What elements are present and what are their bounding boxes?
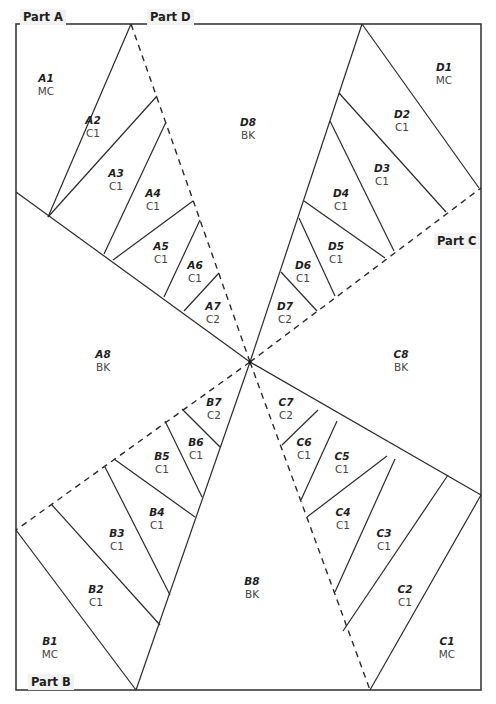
piece-color: C1	[296, 449, 311, 462]
piece-color: BK	[393, 361, 408, 374]
piece-id: B6	[188, 436, 203, 449]
piece-id: B7	[206, 396, 221, 409]
part-label-c: Part C	[434, 233, 480, 249]
piece-d2: D2C1	[394, 108, 410, 134]
piece-id: B2	[88, 583, 103, 596]
piece-id: D6	[295, 259, 311, 272]
piece-id: C4	[335, 506, 350, 519]
piece-id: A3	[108, 167, 123, 180]
piece-id: B8	[244, 575, 259, 588]
piece-color: C1	[88, 596, 103, 609]
piece-color: C2	[206, 409, 221, 422]
piece-id: A2	[85, 114, 100, 127]
piece-id: D2	[394, 108, 410, 121]
piece-a8: A8BK	[95, 348, 110, 374]
piece-id: A8	[95, 348, 110, 361]
piece-id: D4	[333, 187, 349, 200]
piece-d5: D5C1	[328, 240, 344, 266]
piece-a1: A1MC	[38, 72, 54, 98]
piece-a5: A5C1	[153, 240, 168, 266]
part-label-d: Part D	[147, 9, 194, 25]
piece-color: C1	[394, 121, 410, 134]
piece-b7: B7C2	[206, 396, 221, 422]
piece-id: D1	[436, 61, 452, 74]
piece-color: C1	[149, 519, 164, 532]
piece-id: D3	[374, 162, 390, 175]
piece-color: C1	[397, 596, 412, 609]
piece-color: C1	[335, 519, 350, 532]
piece-color: MC	[439, 648, 455, 661]
piece-id: D8	[240, 116, 256, 129]
piece-b3: B3C1	[109, 527, 124, 553]
piece-c1: C1MC	[439, 635, 455, 661]
piece-id: D7	[277, 300, 293, 313]
piece-color: BK	[240, 129, 256, 142]
piece-color: MC	[436, 74, 452, 87]
piece-color: C1	[328, 253, 344, 266]
piece-c3: C3C1	[376, 527, 391, 553]
piece-id: C2	[397, 583, 412, 596]
piece-b6: B6C1	[188, 436, 203, 462]
piece-a3: A3C1	[108, 167, 123, 193]
piece-a4: A4C1	[145, 187, 160, 213]
piece-id: C1	[439, 635, 455, 648]
piece-c2: C2C1	[397, 583, 412, 609]
piece-id: B5	[154, 450, 169, 463]
piece-color: C1	[376, 540, 391, 553]
part-label-b: Part B	[28, 674, 74, 690]
piece-color: C2	[277, 313, 293, 326]
piece-color: C1	[108, 180, 123, 193]
piece-d8: D8BK	[240, 116, 256, 142]
piece-id: A7	[205, 300, 220, 313]
piece-b4: B4C1	[149, 506, 164, 532]
piece-id: C7	[278, 396, 293, 409]
piece-id: B4	[149, 506, 164, 519]
piece-color: BK	[244, 588, 259, 601]
piece-id: A1	[38, 72, 54, 85]
piece-color: BK	[95, 361, 110, 374]
piece-id: C5	[334, 450, 349, 463]
piece-id: B3	[109, 527, 124, 540]
piece-color: C2	[205, 313, 220, 326]
piece-b5: B5C1	[154, 450, 169, 476]
piece-color: C1	[188, 449, 203, 462]
piece-c6: C6C1	[296, 436, 311, 462]
piece-color: C1	[333, 200, 349, 213]
piece-c5: C5C1	[334, 450, 349, 476]
piece-a6: A6C1	[187, 259, 202, 285]
piece-id: C8	[393, 348, 408, 361]
piece-d6: D6C1	[295, 259, 311, 285]
piece-a7: A7C2	[205, 300, 220, 326]
piece-color: C1	[334, 463, 349, 476]
piece-color: MC	[42, 648, 58, 661]
piece-color: C1	[154, 463, 169, 476]
piece-id: B1	[42, 635, 58, 648]
piece-color: C1	[85, 127, 100, 140]
part-label-a: Part A	[20, 9, 66, 25]
piece-c7: C7C2	[278, 396, 293, 422]
piece-color: C1	[145, 200, 160, 213]
piece-id: D5	[328, 240, 344, 253]
piece-d1: D1MC	[436, 61, 452, 87]
piece-a2: A2C1	[85, 114, 100, 140]
piece-d3: D3C1	[374, 162, 390, 188]
center-point	[248, 360, 252, 364]
piece-color: C1	[187, 272, 202, 285]
piece-color: MC	[38, 85, 54, 98]
piece-b2: B2C1	[88, 583, 103, 609]
piece-color: C1	[374, 175, 390, 188]
piece-color: C2	[278, 409, 293, 422]
piece-id: A6	[187, 259, 202, 272]
piece-color: C1	[295, 272, 311, 285]
piece-b8: B8BK	[244, 575, 259, 601]
piece-id: C3	[376, 527, 391, 540]
piece-b1: B1MC	[42, 635, 58, 661]
piece-id: C6	[296, 436, 311, 449]
piece-d7: D7C2	[277, 300, 293, 326]
piece-id: A5	[153, 240, 168, 253]
piece-c8: C8BK	[393, 348, 408, 374]
piece-c4: C4C1	[335, 506, 350, 532]
piece-color: C1	[109, 540, 124, 553]
piece-d4: D4C1	[333, 187, 349, 213]
piece-id: A4	[145, 187, 160, 200]
